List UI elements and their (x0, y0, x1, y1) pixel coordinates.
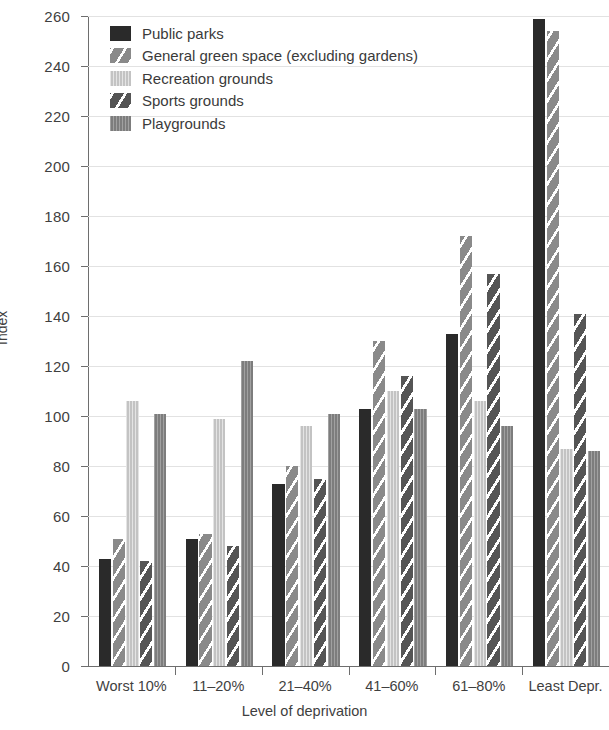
y-axis-tick (81, 466, 88, 467)
bar (154, 414, 166, 667)
bar (328, 414, 340, 667)
y-axis-tick (81, 16, 88, 17)
x-axis-tick-label: 61–80% (435, 678, 522, 694)
chart-legend: Public parksGeneral green space (excludi… (110, 22, 418, 135)
y-axis-title: Index (0, 311, 10, 345)
legend-item: Sports grounds (110, 90, 418, 113)
y-axis-tick-label: 200 (44, 158, 70, 175)
y-axis-tick (81, 416, 88, 417)
bar (373, 341, 385, 666)
y-axis-tick (81, 66, 88, 67)
legend-item-label: Public parks (142, 25, 224, 42)
legend-item-label: General green space (excluding gardens) (142, 47, 418, 64)
bar (186, 539, 198, 667)
bar-chart: 020406080100120140160180200220240260 Ind… (0, 0, 609, 730)
y-axis-tick (81, 266, 88, 267)
y-axis-tick-label: 60 (53, 508, 70, 525)
y-axis-tick (81, 666, 88, 667)
y-axis-tick-label: 40 (53, 558, 70, 575)
bar (588, 451, 600, 666)
legend-item: Playgrounds (110, 112, 418, 135)
legend-item-label: Recreation grounds (142, 70, 273, 87)
x-axis-tick (262, 666, 263, 675)
bar (474, 401, 486, 666)
y-axis-tick-label: 140 (44, 308, 70, 325)
bar (241, 361, 253, 666)
bar (560, 449, 572, 667)
x-axis-tick (435, 666, 436, 675)
bar (314, 479, 326, 667)
legend-item-label: Sports grounds (142, 92, 244, 109)
legend-item-label: Playgrounds (142, 115, 225, 132)
y-axis-tick-label: 180 (44, 208, 70, 225)
bar (126, 401, 138, 666)
y-axis-tick-label: 120 (44, 358, 70, 375)
bar (414, 409, 426, 667)
bar (359, 409, 371, 667)
x-axis-tick (175, 666, 176, 675)
legend-swatch-recreation-grounds (110, 71, 131, 86)
y-axis-tick-label: 100 (44, 408, 70, 425)
y-axis-tick-labels: 020406080100120140160180200220240260 (0, 0, 82, 730)
y-axis-tick (81, 166, 88, 167)
y-axis-tick (81, 316, 88, 317)
x-axis-title: Level of deprivation (0, 703, 609, 719)
x-axis-tick-label: 21–40% (262, 678, 349, 694)
legend-swatch-playgrounds (110, 116, 131, 131)
y-axis-tick-label: 20 (53, 608, 70, 625)
y-axis-tick (81, 616, 88, 617)
bar (113, 539, 125, 667)
y-axis-tick (81, 116, 88, 117)
y-axis-tick (81, 566, 88, 567)
bar-group (435, 16, 522, 666)
x-axis-tick (522, 666, 523, 675)
x-axis-tick-label: 41–60% (349, 678, 436, 694)
bar (487, 274, 499, 667)
y-axis-tick (81, 216, 88, 217)
x-axis-tick-label: 11–20% (175, 678, 262, 694)
legend-swatch-public-parks (110, 26, 131, 41)
y-axis-tick-label: 160 (44, 258, 70, 275)
y-axis-tick (81, 366, 88, 367)
bar (140, 561, 152, 666)
bar (446, 334, 458, 667)
x-axis-tick-label: Least Depr. (522, 678, 609, 694)
bar (286, 466, 298, 666)
bar (460, 236, 472, 666)
legend-item: Public parks (110, 22, 418, 45)
bar (501, 426, 513, 666)
bar (300, 426, 312, 666)
x-axis-tick-label: Worst 10% (88, 678, 175, 694)
legend-item: Recreation grounds (110, 67, 418, 90)
y-axis-tick-label: 260 (44, 8, 70, 25)
y-axis-tick-label: 80 (53, 458, 70, 475)
bar (272, 484, 284, 667)
legend-swatch-sports-grounds (110, 93, 131, 108)
x-axis-tick (349, 666, 350, 675)
bar (227, 546, 239, 666)
bar (387, 391, 399, 666)
bar (547, 31, 559, 666)
bar (213, 419, 225, 667)
y-axis-tick (81, 516, 88, 517)
legend-item: General green space (excluding gardens) (110, 45, 418, 68)
y-axis-tick-label: 0 (61, 658, 70, 675)
y-axis-tick-label: 220 (44, 108, 70, 125)
bar (533, 19, 545, 667)
bar (99, 559, 111, 667)
bar (199, 534, 211, 667)
bar (574, 314, 586, 667)
y-axis-tick-label: 240 (44, 58, 70, 75)
legend-swatch-general-green-space (110, 48, 131, 63)
bar-group (522, 16, 609, 666)
bar (401, 376, 413, 666)
